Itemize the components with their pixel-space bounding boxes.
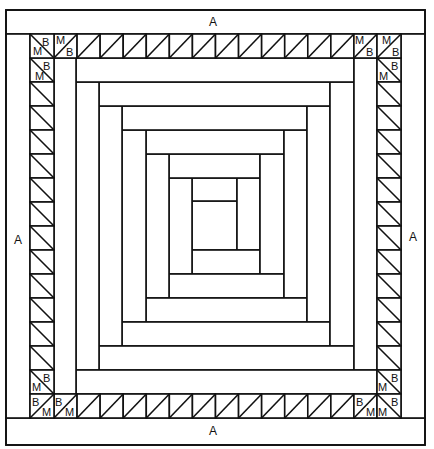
log-22-right — [354, 58, 377, 370]
piece-label-m: M — [56, 34, 65, 46]
a-strip-right — [401, 34, 425, 418]
piece-label-b: B — [55, 396, 62, 408]
piece-label-m: M — [382, 34, 391, 46]
piece-label-m: M — [379, 70, 388, 82]
piece-label-m: M — [42, 406, 51, 418]
log-2-right — [237, 178, 260, 250]
log-9-top — [146, 130, 284, 154]
quilt-diagram: AAAA BMMBBMMBMBBMBMBMBMBMBMMB — [0, 0, 434, 449]
a-strip-label: A — [209, 15, 217, 29]
log-21-top — [76, 58, 354, 82]
piece-label-b: B — [43, 372, 50, 384]
log-5-top — [169, 154, 260, 178]
log-14-right — [307, 106, 330, 322]
piece-label-b: B — [366, 46, 373, 58]
a-strip-label: A — [209, 424, 217, 438]
log-23-bottom — [76, 370, 377, 394]
piece-label-b: B — [391, 396, 398, 408]
piece-label-b: B — [356, 396, 363, 408]
log-13-top — [122, 106, 307, 130]
piece-label-m: M — [35, 70, 44, 82]
piece-label-m: M — [65, 406, 74, 418]
piece-label-b: B — [392, 46, 399, 58]
piece-label-b: B — [391, 60, 398, 72]
piece-label-m: M — [378, 406, 387, 418]
piece-label-m: M — [378, 381, 387, 393]
piece-label-m: M — [32, 381, 41, 393]
log-10-right — [284, 130, 307, 298]
log-24-left — [54, 58, 76, 394]
piece-label-b: B — [32, 396, 39, 408]
log-12-left — [122, 130, 146, 322]
log-7-bottom — [169, 274, 284, 298]
log-18-right — [330, 82, 354, 346]
log-17-top — [99, 82, 330, 106]
a-strip-label: A — [14, 233, 22, 247]
log-15-bottom — [122, 322, 330, 346]
log-19-bottom — [99, 346, 354, 370]
piece-label-b: B — [66, 46, 73, 58]
log-11-bottom — [146, 298, 307, 322]
log-16-left — [99, 106, 122, 346]
piece-label-m: M — [33, 45, 42, 57]
a-strip-label: A — [409, 230, 417, 244]
log-6-right — [260, 154, 284, 274]
log-8-left — [146, 154, 169, 298]
a-strip-left — [6, 34, 30, 418]
log-cabin-block — [54, 58, 377, 394]
log-3-bottom — [192, 250, 260, 274]
piece-label-m: M — [355, 34, 364, 46]
log-20-left — [76, 82, 99, 370]
log-4-left — [169, 178, 192, 274]
log-1-top — [192, 178, 237, 201]
piece-label-b: B — [42, 36, 49, 48]
piece-label-m: M — [366, 406, 375, 418]
piece-label-b: B — [391, 372, 398, 384]
center — [192, 201, 237, 250]
